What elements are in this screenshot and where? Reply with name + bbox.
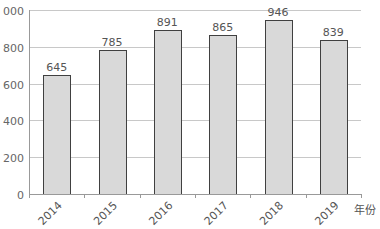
x-axis-category-labels: 201420152016201720182019	[36, 199, 342, 228]
bar-2017	[210, 36, 237, 195]
y-tick-label: 400	[3, 115, 24, 128]
x-tick-label-2017: 2017	[202, 199, 231, 228]
bar-2019	[321, 41, 348, 195]
y-tick-label: 200	[3, 152, 24, 165]
y-tick-label: 800	[3, 42, 24, 55]
value-label-2018: 946	[268, 6, 289, 19]
value-label-2017: 865	[212, 21, 233, 34]
x-tick-label-2014: 2014	[36, 199, 65, 228]
axes	[29, 10, 362, 198]
x-tick-label-2015: 2015	[91, 199, 120, 228]
value-label-2019: 839	[323, 26, 344, 39]
y-axis-tick-labels: 02004006008001 000	[0, 5, 24, 202]
bar-2016	[155, 31, 182, 195]
value-label-2014: 645	[46, 61, 67, 74]
bars	[44, 21, 348, 195]
bar-2018	[266, 21, 293, 195]
value-label-2015: 785	[102, 36, 123, 49]
x-axis-title: 年份	[354, 203, 376, 217]
y-tick-label: 1 000	[0, 5, 24, 18]
x-tick-label-2016: 2016	[146, 199, 175, 228]
gridlines	[29, 11, 361, 158]
value-label-2016: 891	[157, 16, 178, 29]
value-labels: 645785891865946839	[46, 6, 344, 74]
x-tick-label-2018: 2018	[257, 199, 286, 228]
bar-2014	[44, 76, 71, 195]
y-tick-label: 0	[17, 189, 24, 202]
x-tick-label-2019: 2019	[312, 199, 341, 228]
y-tick-label: 600	[3, 79, 24, 92]
bar-chart: 02004006008001 000 645785891865946839 20…	[0, 0, 380, 229]
bar-2015	[100, 51, 127, 195]
